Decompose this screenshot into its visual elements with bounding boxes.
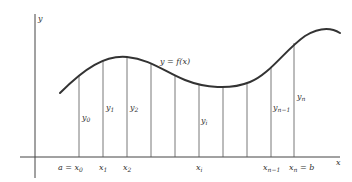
x-label-x1: x1	[99, 163, 107, 173]
ordinate-label-y2: y2	[129, 103, 139, 113]
x-label-xn-1: xn−1	[263, 163, 280, 173]
x-label-xn-b: xn = b	[289, 163, 314, 173]
x-axis-label: x	[336, 158, 341, 167]
curve-label: y = f(x)	[159, 57, 190, 66]
x-label-x2: x2	[123, 163, 132, 173]
y-axis-label: y	[37, 14, 43, 23]
ordinate-label-y1: y1	[105, 103, 114, 113]
x-label-a-x0: a = x0	[58, 163, 83, 173]
function-curve	[60, 29, 340, 93]
ordinate-label-yi: yi	[200, 116, 208, 126]
ordinate-label-y0: y0	[81, 113, 91, 123]
ordinate-label-yn: yn	[296, 92, 306, 102]
ordinate-label-yn-1: yn−1	[272, 103, 290, 113]
ordinates-diagram: y x y = f(x) y0 y1 y2 yi yn−1 yn a = x0 …	[0, 0, 352, 182]
x-label-xi: xi	[196, 163, 203, 173]
